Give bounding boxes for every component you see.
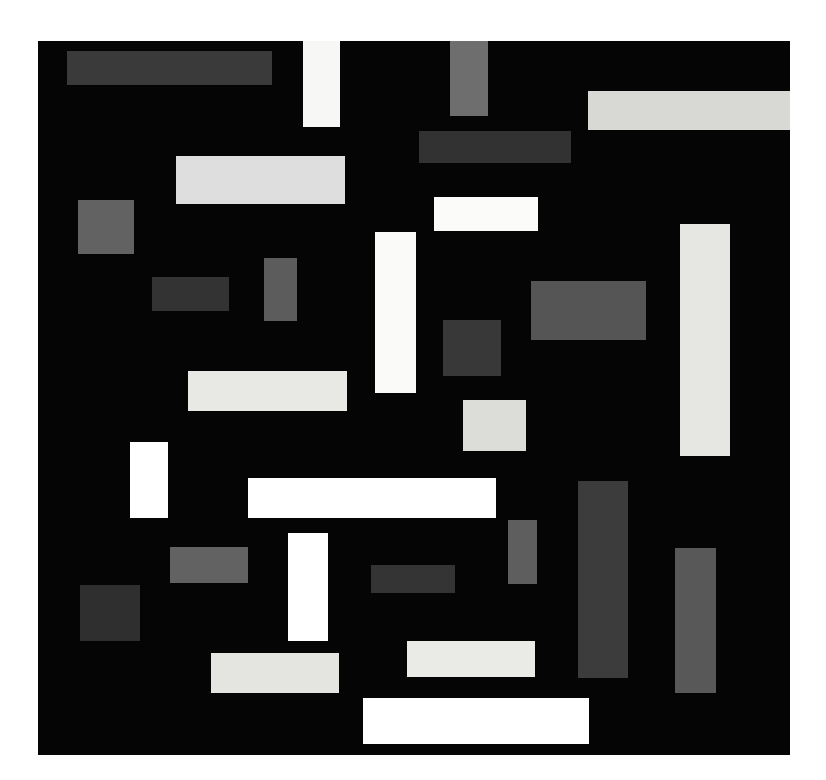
white-bar-bottom (363, 698, 589, 744)
white-column-left (130, 442, 168, 518)
white-column-top (303, 41, 340, 127)
pale-bar-top-right (588, 91, 790, 130)
grey-tall-column-far-right (675, 548, 716, 693)
dark-bar-top-left (67, 51, 272, 85)
grey-square-left (78, 200, 134, 254)
pale-bar-bottom-centre (407, 641, 535, 677)
grey-column-lower-centre (508, 520, 537, 584)
pale-bar-upper-left (176, 156, 345, 204)
grey-column-small-left (264, 258, 297, 321)
white-bar-upper-centre (434, 197, 538, 231)
dark-bar-lower-centre (371, 565, 455, 593)
dark-square-lower-left (80, 585, 140, 641)
white-column-lower-left (288, 533, 328, 641)
pale-bar-mid-left (188, 371, 347, 411)
white-tall-column-centre (375, 232, 416, 393)
pale-square-centre (463, 400, 526, 451)
dark-square-centre (443, 320, 501, 376)
grey-block-mid-right (531, 281, 646, 340)
painting-canvas (38, 41, 790, 755)
grey-bar-lower-left (170, 547, 248, 583)
dark-bar-upper-centre (419, 131, 571, 163)
dark-tall-column-right (578, 481, 628, 678)
dark-bar-mid-left (152, 277, 229, 311)
white-long-bar-centre (248, 478, 496, 518)
pale-bar-bottom-left (211, 653, 339, 693)
artwork-root (0, 0, 826, 780)
grey-column-top-centre (450, 41, 488, 116)
light-tall-column-right (680, 224, 730, 456)
